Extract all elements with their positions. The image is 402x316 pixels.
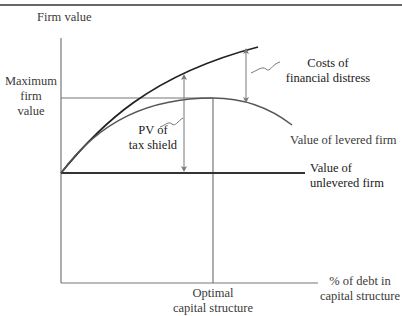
optimal-label-line2: capital structure — [163, 301, 263, 316]
costs-label-line2: financial distress — [280, 71, 376, 86]
optimal-label-line1: Optimal — [163, 286, 263, 301]
y-axis-label: Firm value — [37, 10, 92, 25]
optimal-structure-label: Optimal capital structure — [163, 286, 263, 316]
costs-label-line1: Costs of — [280, 56, 376, 71]
unlevered-label-line2: unlevered firm — [310, 176, 384, 191]
pv-tax-shield-label: PV of tax shield — [123, 123, 183, 153]
x-axis-label: % of debt in capital structure — [318, 274, 402, 304]
x-axis-label-line2: capital structure — [318, 289, 402, 304]
max-value-label-line1: Maximum — [0, 74, 62, 89]
max-value-label: Maximum firm value — [0, 74, 62, 119]
costs-leader — [251, 62, 280, 73]
levered-firm-label: Value of levered firm — [290, 133, 397, 148]
pv-label-line2: tax shield — [123, 138, 183, 153]
costs-distress-label: Costs of financial distress — [280, 56, 376, 86]
max-value-label-line3: value — [0, 104, 62, 119]
unlevered-firm-label: Value of unlevered firm — [310, 161, 384, 191]
tax-shield-curve — [61, 47, 258, 173]
max-value-label-line2: firm — [0, 89, 62, 104]
pv-label-line1: PV of — [123, 123, 183, 138]
unlevered-label-line1: Value of — [310, 161, 384, 176]
x-axis-label-line1: % of debt in — [318, 274, 402, 289]
